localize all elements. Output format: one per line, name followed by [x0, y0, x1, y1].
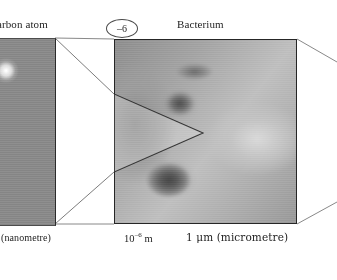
- bacterium-image-panel: [114, 39, 297, 224]
- scale-comparison-figure: arbon atom Bacterium –6 (nanometre) 10–6…: [0, 0, 337, 280]
- scale-mantissa: 10: [124, 233, 135, 244]
- metre-scale-label: 10–6 m: [124, 231, 153, 244]
- carbon-atom-image-panel: [0, 38, 56, 226]
- exponent-badge: –6: [106, 19, 138, 38]
- scale-unit: m: [144, 233, 152, 244]
- carbon-atom-title-label: arbon atom: [0, 18, 48, 30]
- scale-exponent: –6: [135, 231, 142, 239]
- nanometre-caption-label: (nanometre): [1, 232, 51, 243]
- micrometre-caption-label: 1 μm (micrometre): [186, 231, 288, 243]
- bacterium-title-label: Bacterium: [177, 18, 224, 30]
- scan-grain-overlay: [115, 40, 296, 223]
- scan-grain-overlay: [0, 39, 55, 225]
- exponent-badge-text: –6: [117, 24, 127, 34]
